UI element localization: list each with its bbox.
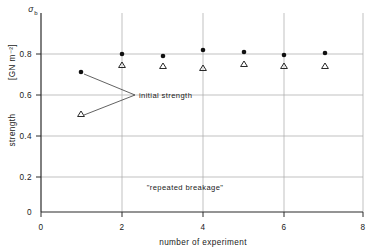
y-axis-symbol-subscript: b xyxy=(34,10,38,16)
data-point-circle-1 xyxy=(79,70,84,75)
xtick-label-8: 8 xyxy=(361,223,366,232)
xtick-label-6: 6 xyxy=(282,223,287,232)
x-axis-title: number of experiment xyxy=(159,238,247,247)
y-axis-unit: [GN m⁻²] xyxy=(8,44,17,80)
data-point-circle-3 xyxy=(161,54,166,59)
y-axis-title: strength xyxy=(8,114,17,147)
ytick-label-0: 0 xyxy=(27,208,32,217)
chart-figure: 0.8 0.6 0.4 0.2 0 0 2 4 6 8 σ b strength… xyxy=(0,0,370,248)
annotation-initial-strength: initial strength xyxy=(139,91,192,100)
xtick-label-0: 0 xyxy=(39,223,44,232)
annotation-repeated-breakage: "repeated breakage" xyxy=(147,183,224,192)
xtick-label-2: 2 xyxy=(120,223,125,232)
ytick-label-0.8: 0.8 xyxy=(19,50,32,59)
data-point-circle-2 xyxy=(120,52,125,57)
ytick-label-0.6: 0.6 xyxy=(19,91,32,100)
data-point-circle-4 xyxy=(201,48,206,53)
ytick-label-0.4: 0.4 xyxy=(19,132,32,141)
xtick-label-4: 4 xyxy=(201,223,206,232)
plot-background xyxy=(0,0,370,248)
scatter-plot: 0.8 0.6 0.4 0.2 0 0 2 4 6 8 σ b strength… xyxy=(0,0,370,248)
data-point-circle-7 xyxy=(323,51,328,56)
data-point-circle-6 xyxy=(282,53,287,58)
ytick-label-0.2: 0.2 xyxy=(19,173,32,182)
data-point-circle-5 xyxy=(242,50,247,55)
